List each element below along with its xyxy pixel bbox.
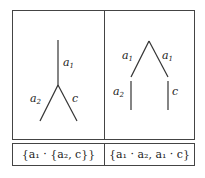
caption-right: {a₁ · a₂, a₁ · c} (105, 144, 194, 165)
right-tree-right-top-label: a1 (162, 49, 173, 63)
left-tree-left-label: a2 (30, 92, 42, 106)
right-tree-left-bottom-label: a2 (113, 85, 125, 99)
caption-left: {a₁ · {a₂, c}} (13, 144, 104, 165)
left-tree-trunk-label: a1 (63, 56, 74, 70)
right-tree-left-arm (131, 41, 149, 77)
right-tree-left-top-label: a1 (122, 49, 133, 63)
left-tree-left-branch (40, 85, 58, 121)
left-tree-right-label: c (72, 92, 78, 105)
right-tree-right-bottom-label: c (172, 85, 178, 98)
left-tree (40, 40, 77, 121)
caption-row: {a₁ · {a₂, c}} {a₁ · a₂, a₁ · c} (12, 143, 195, 166)
